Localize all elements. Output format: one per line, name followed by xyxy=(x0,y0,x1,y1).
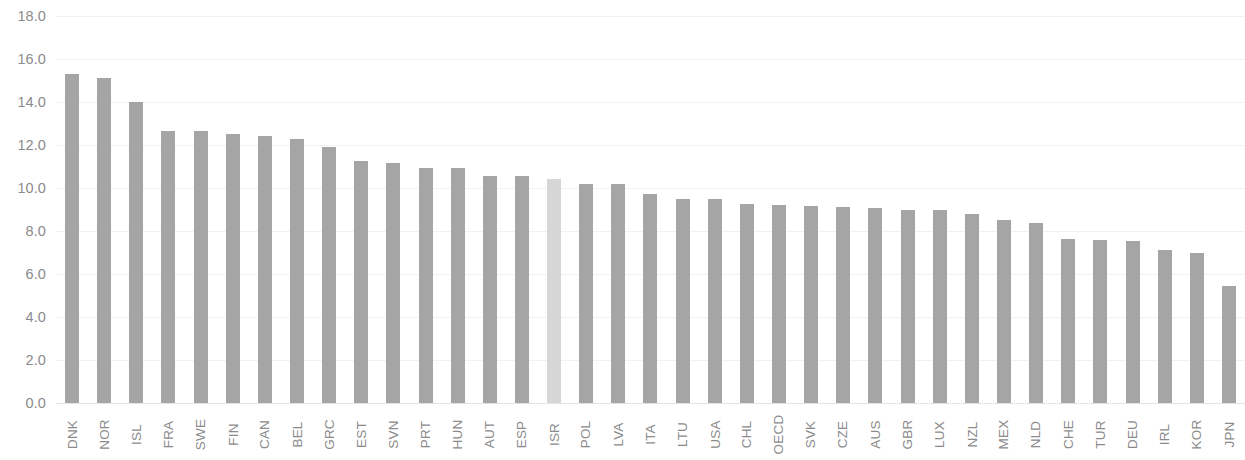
x-axis-tick-label: TUR xyxy=(1084,409,1116,459)
bar-chart: 0.02.04.06.08.010.012.014.016.018.0 DNKN… xyxy=(0,0,1245,460)
x-axis-tick-label: BEL xyxy=(281,409,313,459)
x-axis-tick-label: NLD xyxy=(1020,409,1052,459)
x-axis-tick-text: POL xyxy=(579,421,594,449)
x-axis-tick-text: NLD xyxy=(1029,421,1044,449)
x-axis-tick-text: ESP xyxy=(514,421,529,449)
x-axis-tick-label: CHE xyxy=(1052,409,1084,459)
x-axis-tick-label: CAN xyxy=(249,409,281,459)
x-axis-tick-label: GBR xyxy=(892,409,924,459)
x-axis-tick-label: OECD xyxy=(763,409,795,459)
y-axis-tick-label: 4.0 xyxy=(0,310,46,325)
plot-area: DNKNORISLFRASWEFINCANBELGRCESTSVNPRTHUNA… xyxy=(56,0,1245,460)
x-axis-tick-label: PRT xyxy=(409,409,441,459)
x-axis-tick-label: KOR xyxy=(1181,409,1213,459)
x-axis-tick-label: SVN xyxy=(377,409,409,459)
x-axis-tick-label: EST xyxy=(345,409,377,459)
x-axis-tick-text: CAN xyxy=(257,420,272,449)
x-axis-tick-label: ITA xyxy=(634,409,666,459)
x-axis-tick-text: CHL xyxy=(739,421,754,449)
x-axis-tick-label: DNK xyxy=(56,409,88,459)
x-axis-tick-text: ISR xyxy=(547,423,562,446)
x-axis-tick-text: GRC xyxy=(322,419,337,450)
x-axis-tick-text: GBR xyxy=(900,420,915,450)
x-axis-tick-label: GRC xyxy=(313,409,345,459)
x-axis-tick-text: SVN xyxy=(386,420,401,448)
x-axis-tick-text: NZL xyxy=(964,421,979,447)
x-axis-tick-label: DEU xyxy=(1116,409,1148,459)
x-axis-tick-text: SWE xyxy=(193,419,208,450)
x-axis-tick-label: HUN xyxy=(442,409,474,459)
x-axis-tick-label: SWE xyxy=(185,409,217,459)
x-axis-tick-text: NOR xyxy=(97,419,112,450)
y-axis-tick-label: 6.0 xyxy=(0,267,46,282)
x-axis-tick-label: FRA xyxy=(152,409,184,459)
x-axis-tick-text: MEX xyxy=(996,420,1011,450)
x-axis-tick-label: ISR xyxy=(538,409,570,459)
x-axis-tick-label: AUS xyxy=(859,409,891,459)
y-axis: 0.02.04.06.08.010.012.014.016.018.0 xyxy=(0,0,56,460)
y-axis-tick-label: 18.0 xyxy=(0,9,46,24)
x-axis-tick-text: HUN xyxy=(450,420,465,450)
x-axis-tick-text: CHE xyxy=(1061,420,1076,449)
x-axis-tick-label: ESP xyxy=(506,409,538,459)
x-axis-tick-label: CZE xyxy=(827,409,859,459)
y-axis-tick-label: 16.0 xyxy=(0,52,46,67)
y-axis-tick-label: 12.0 xyxy=(0,138,46,153)
x-axis-tick-text: DNK xyxy=(65,420,80,449)
x-axis-tick-text: OECD xyxy=(772,415,787,455)
x-axis-tick-label: JPN xyxy=(1213,409,1245,459)
x-axis-tick-text: DEU xyxy=(1125,420,1140,449)
x-axis-tick-text: BEL xyxy=(290,421,305,447)
x-axis-tick-label: ISL xyxy=(120,409,152,459)
y-axis-tick-label: 2.0 xyxy=(0,353,46,368)
x-axis-tick-label: CHL xyxy=(731,409,763,459)
x-axis-tick-label: NOR xyxy=(88,409,120,459)
x-axis-tick-text: USA xyxy=(707,420,722,448)
x-axis-tick-text: ITA xyxy=(643,424,658,445)
x-axis-tick-text: SVK xyxy=(804,421,819,449)
x-axis-tick-label: LUX xyxy=(924,409,956,459)
x-axis-tick-label: NZL xyxy=(956,409,988,459)
x-axis-tick-text: CZE xyxy=(836,421,851,449)
x-axis-tick-text: FRA xyxy=(161,421,176,449)
x-axis: DNKNORISLFRASWEFINCANBELGRCESTSVNPRTHUNA… xyxy=(56,0,1245,460)
x-axis-tick-label: AUT xyxy=(474,409,506,459)
y-axis-tick-label: 8.0 xyxy=(0,224,46,239)
x-axis-tick-label: LVA xyxy=(602,409,634,459)
x-axis-tick-label: MEX xyxy=(988,409,1020,459)
y-axis-tick-label: 0.0 xyxy=(0,396,46,411)
x-axis-tick-label: USA xyxy=(699,409,731,459)
x-axis-tick-label: FIN xyxy=(217,409,249,459)
x-axis-tick-label: IRL xyxy=(1149,409,1181,459)
x-axis-tick-text: AUS xyxy=(868,420,883,448)
x-axis-tick-text: JPN xyxy=(1221,421,1236,447)
x-axis-tick-text: TUR xyxy=(1093,420,1108,448)
x-axis-tick-text: KOR xyxy=(1189,420,1204,450)
y-axis-tick-label: 14.0 xyxy=(0,95,46,110)
x-axis-tick-text: LUX xyxy=(932,421,947,448)
x-axis-tick-text: PRT xyxy=(418,421,433,448)
x-axis-tick-text: FIN xyxy=(225,423,240,445)
x-axis-tick-text: IRL xyxy=(1157,424,1172,446)
x-axis-tick-label: POL xyxy=(570,409,602,459)
x-axis-tick-text: LTU xyxy=(675,422,690,447)
x-axis-tick-text: LVA xyxy=(611,422,626,446)
x-axis-tick-label: LTU xyxy=(667,409,699,459)
x-axis-tick-text: EST xyxy=(354,421,369,448)
x-axis-tick-text: ISL xyxy=(129,424,144,445)
y-axis-tick-label: 10.0 xyxy=(0,181,46,196)
x-axis-tick-label: SVK xyxy=(795,409,827,459)
x-axis-tick-text: AUT xyxy=(482,421,497,449)
